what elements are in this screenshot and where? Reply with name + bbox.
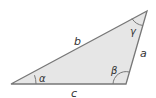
side-label-c: c <box>71 87 77 98</box>
angle-label-alpha: α <box>39 73 46 84</box>
angle-label-beta: β <box>110 65 118 76</box>
triangle-diagram: b a c α β γ <box>0 0 156 98</box>
side-label-a: a <box>140 47 147 60</box>
side-label-b: b <box>74 35 81 48</box>
